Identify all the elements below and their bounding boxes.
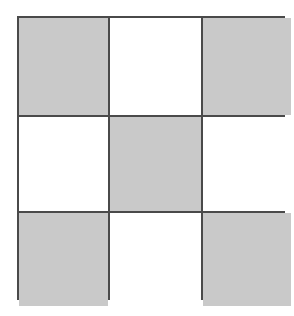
grid-cell-r1c3	[203, 18, 291, 115]
figure-area	[0, 0, 294, 316]
grid-cell-r1c2	[110, 18, 201, 115]
grid-cell-r3c1	[19, 213, 108, 306]
grid-cell-r2c1	[19, 117, 108, 211]
grid-cell-r3c3	[203, 213, 291, 306]
checkerboard-grid	[17, 16, 285, 300]
grid-cell-r1c1	[19, 18, 108, 115]
grid-cell-r3c2	[110, 213, 201, 306]
grid-cell-r2c2	[110, 117, 201, 211]
grid-cell-r2c3	[203, 117, 291, 211]
